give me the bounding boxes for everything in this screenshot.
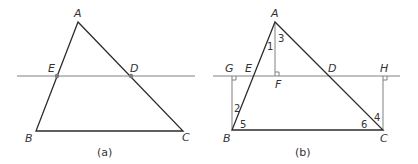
label-g: G	[225, 62, 234, 75]
label-b: B	[223, 132, 231, 145]
label-e: E	[245, 62, 252, 75]
figure-b: A G E F D H B C 1 2 3 4 5 6 (b)	[213, 7, 400, 159]
label-a: A	[270, 7, 279, 20]
point-e-dot	[55, 74, 59, 78]
caption-b: (b)	[295, 146, 311, 159]
angle-3: 3	[278, 33, 284, 44]
label-e: E	[48, 62, 55, 75]
angle-2: 2	[234, 103, 240, 114]
right-angle-h	[383, 76, 387, 80]
geometry-figure: A E D B C (a) A G E F D H B C 1 2 3 4 5 …	[0, 0, 418, 164]
right-angle-f	[275, 72, 279, 76]
label-h: H	[380, 62, 388, 75]
figure-a: A E D B C (a)	[17, 7, 195, 159]
label-c: C	[380, 132, 388, 145]
label-f: F	[275, 78, 282, 91]
label-d: D	[328, 62, 336, 75]
angle-6: 6	[361, 119, 367, 130]
label-c: C	[182, 131, 190, 144]
angle-5: 5	[240, 119, 246, 130]
angle-4: 4	[374, 112, 380, 123]
caption-a: (a)	[97, 146, 112, 159]
label-a: A	[73, 7, 82, 20]
label-d: D	[130, 62, 138, 75]
label-b: B	[25, 132, 33, 145]
angle-1: 1	[267, 41, 273, 52]
right-angle-g	[232, 76, 236, 80]
